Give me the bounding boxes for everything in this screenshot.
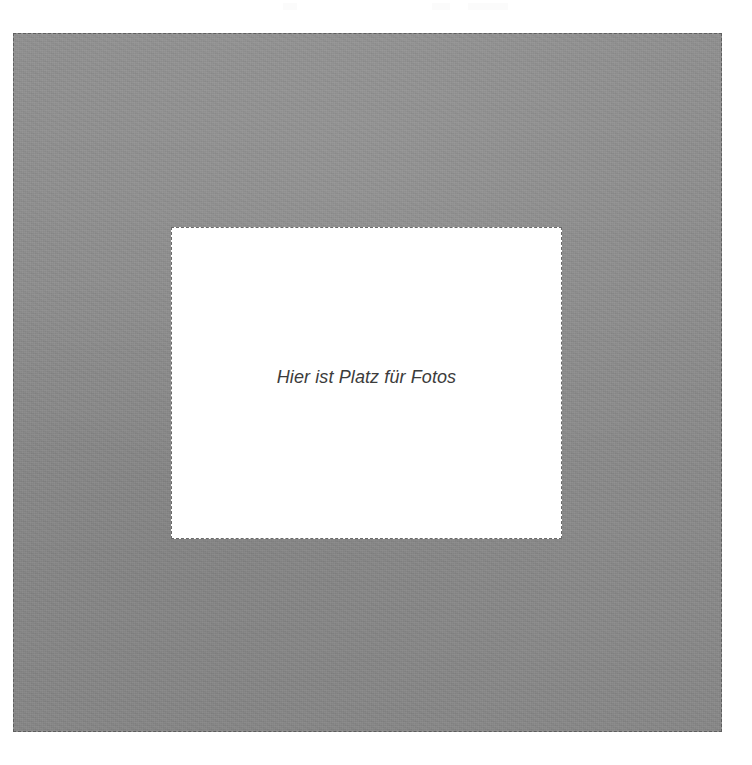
photo-placeholder-window[interactable]: Hier ist Platz für Fotos (171, 227, 562, 539)
scan-artifact-mark (432, 3, 450, 10)
photo-mat: Hier ist Platz für Fotos (13, 33, 722, 732)
scan-artifact-mark (468, 3, 508, 10)
scan-artifact-mark (283, 3, 297, 10)
page-canvas: Hier ist Platz für Fotos (0, 0, 752, 765)
photo-placeholder-label: Hier ist Platz für Fotos (277, 367, 456, 389)
